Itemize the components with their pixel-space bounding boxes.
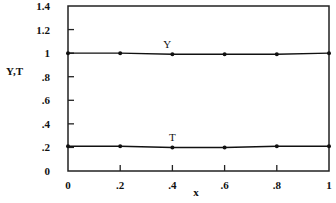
- y-tick-label: .4: [42, 118, 51, 130]
- x-axis-title: x: [193, 186, 199, 198]
- data-point: [66, 144, 70, 148]
- series-line: [68, 146, 329, 147]
- y-tick-label: .8: [42, 71, 51, 83]
- data-point: [66, 51, 70, 55]
- series-label: T: [169, 131, 176, 143]
- y-tick-label: 1.2: [36, 24, 50, 36]
- data-point: [327, 144, 331, 148]
- line-chart: 0.2.4.6.811.21.4 0.2.4.6.81 YT Y,T x: [0, 0, 336, 203]
- y-tick-label: 1.4: [36, 0, 50, 12]
- series-y: Y: [66, 38, 331, 56]
- y-axis-title: Y,T: [6, 65, 24, 77]
- y-tick-label: 0: [45, 165, 51, 177]
- x-tick-label: .8: [273, 179, 282, 191]
- data-point: [118, 144, 122, 148]
- data-point: [327, 51, 331, 55]
- data-point: [170, 52, 174, 56]
- x-tick-label: .6: [220, 179, 229, 191]
- data-point: [223, 52, 227, 56]
- y-tick-label: .6: [42, 94, 51, 106]
- series-t: T: [66, 131, 331, 149]
- data-point: [118, 51, 122, 55]
- x-tick-label: .4: [168, 179, 177, 191]
- y-tick-label: .2: [42, 141, 51, 153]
- y-tick-label: 1: [45, 47, 51, 59]
- data-point: [170, 145, 174, 149]
- x-tick-label: 1: [326, 179, 332, 191]
- x-tick-label: .2: [116, 179, 125, 191]
- series-label: Y: [163, 38, 171, 50]
- data-point: [275, 52, 279, 56]
- series-group: YT: [66, 38, 331, 149]
- data-point: [275, 144, 279, 148]
- series-line: [68, 53, 329, 54]
- x-tick-label: 0: [65, 179, 71, 191]
- data-point: [223, 145, 227, 149]
